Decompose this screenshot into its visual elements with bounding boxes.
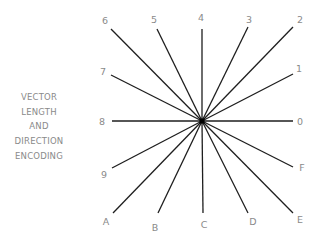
vector-label-1: 1	[296, 63, 302, 74]
vector-line-9	[112, 121, 202, 168]
vector-label-e: E	[297, 214, 303, 225]
vector-label-f: F	[299, 162, 304, 173]
vector-line-d	[202, 121, 248, 213]
center-point	[200, 119, 205, 124]
vector-line-c	[202, 121, 203, 213]
vector-label-9: 9	[101, 169, 107, 180]
vector-line-f	[202, 121, 293, 167]
vector-label-2: 2	[297, 14, 303, 25]
vector-label-c: C	[201, 219, 208, 230]
vector-label-d: D	[249, 216, 256, 227]
vector-line-b	[158, 121, 202, 213]
vector-label-3: 3	[246, 14, 252, 25]
vector-line-3	[202, 27, 248, 121]
vector-line-1	[202, 74, 293, 121]
vector-label-8: 8	[99, 116, 105, 127]
vector-line-5	[157, 29, 202, 121]
vector-line-2	[202, 27, 293, 121]
vector-label-a: A	[103, 216, 110, 227]
vector-label-6: 6	[102, 15, 108, 26]
vector-label-4: 4	[198, 12, 204, 23]
vector-direction-diagram: 0123456789ABCDEF	[0, 0, 323, 242]
vector-line-7	[111, 75, 202, 121]
vector-line-6	[111, 29, 202, 121]
vector-label-7: 7	[100, 66, 106, 77]
vector-line-e	[202, 121, 293, 213]
vector-label-0: 0	[297, 116, 303, 127]
vector-label-5: 5	[151, 14, 157, 25]
vector-label-b: B	[152, 222, 159, 233]
vector-line-a	[113, 121, 202, 213]
